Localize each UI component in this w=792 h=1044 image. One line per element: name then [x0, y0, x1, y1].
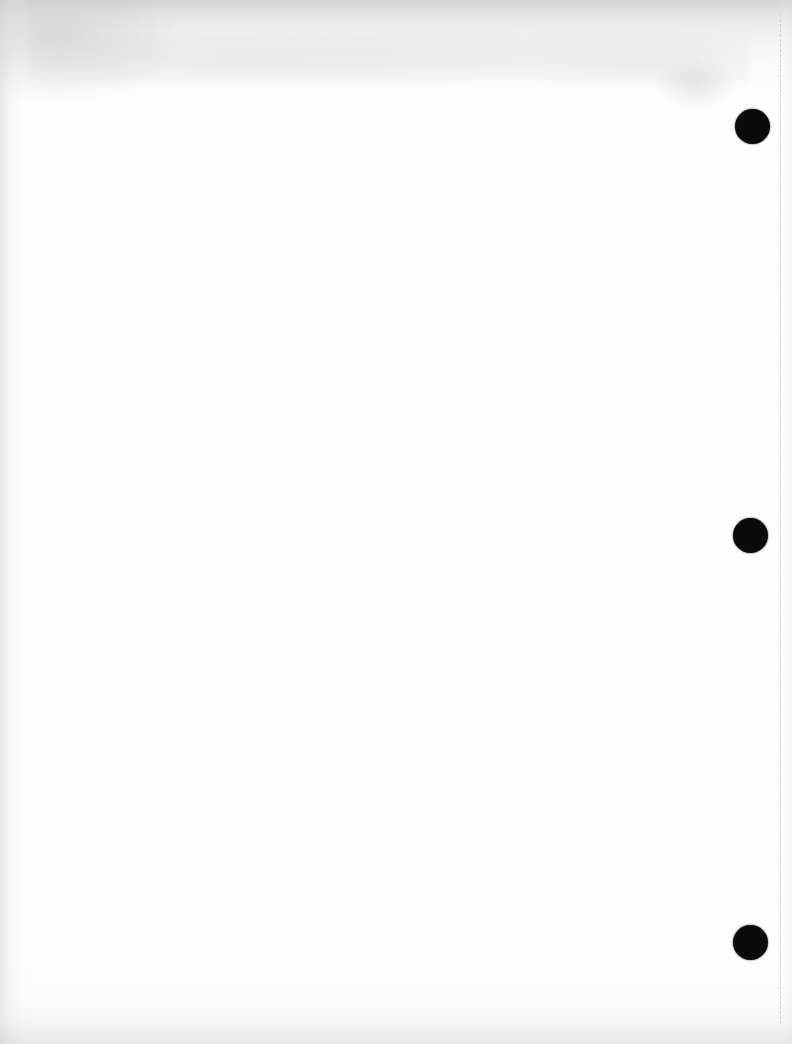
hole-punch-bottom — [733, 925, 768, 960]
scanned-page — [0, 0, 792, 1044]
hole-punch-middle — [733, 518, 768, 553]
page-content-area — [56, 96, 696, 952]
hole-punch-top — [735, 109, 770, 144]
